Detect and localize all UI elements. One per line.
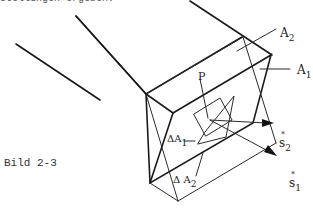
s2-arrowhead-icon <box>262 119 274 127</box>
back-bottom-edge <box>178 143 276 201</box>
label-delta-a1: ΔA1 <box>167 133 187 148</box>
delta-a1-element <box>194 98 232 136</box>
label-a2: A2 <box>279 26 294 43</box>
beam-edge-top <box>190 1 272 55</box>
label-s2: s2 <box>279 136 291 153</box>
beam-cross-section-diagram: A2 A1 P ΔA1 Δ A2 * s2 * s1 Bild 2-3 <box>0 0 313 208</box>
s2-vector <box>210 120 266 123</box>
s1-vector <box>210 120 270 152</box>
beam-edge-left-diag <box>76 16 146 94</box>
figure-caption: Bild 2-3 <box>4 157 57 169</box>
back-top-edge <box>146 37 243 94</box>
a2-leader <box>237 29 276 51</box>
cross-section-front <box>146 55 271 183</box>
label-s1: s1 <box>289 176 301 193</box>
back-right-edge <box>243 37 276 143</box>
label-delta-a2: Δ A2 <box>173 174 196 189</box>
beam-edge-lower-left <box>16 44 100 100</box>
p-leader <box>200 79 208 118</box>
label-p: P <box>198 70 206 83</box>
label-a1: A1 <box>296 63 311 80</box>
